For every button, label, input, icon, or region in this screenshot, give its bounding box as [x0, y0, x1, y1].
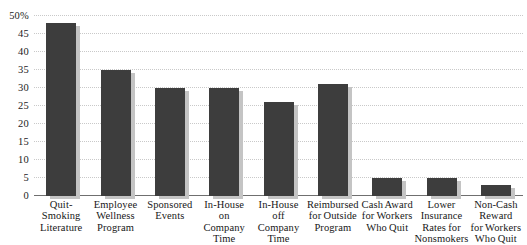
bar-fill [101, 70, 131, 196]
bar [101, 70, 131, 196]
bar-fill [427, 178, 457, 196]
y-tick-label: 45 [18, 29, 29, 39]
x-category-label: In-HouseoffCompanyTime [251, 199, 305, 245]
x-axis-category-labels: Quit-SmokingLiteratureEmployeeWellnessPr… [34, 199, 523, 245]
bar [318, 84, 348, 196]
x-category-label: Reimbursedfor OutsideProgram [306, 199, 360, 233]
bar-fill [372, 178, 402, 196]
x-category-label: LowerInsuranceRates forNonsmokers [414, 199, 468, 245]
y-tick-label: 50% [9, 11, 29, 21]
bar-fill [481, 185, 511, 196]
y-tick-label: 25 [18, 101, 29, 111]
y-tick-label: 30 [18, 83, 29, 93]
bar-fill [46, 23, 76, 196]
y-tick-label: 20 [18, 119, 29, 129]
x-category-label: EmployeeWellnessProgram [88, 199, 142, 233]
bar [372, 178, 402, 196]
x-category-label: SponsoredEvents [143, 199, 197, 222]
y-tick-label: 0 [24, 191, 29, 201]
bar [209, 88, 239, 196]
y-tick-label: 35 [18, 65, 29, 75]
bar [481, 185, 511, 196]
bars [34, 16, 523, 196]
x-category-label: Quit-SmokingLiterature [34, 199, 88, 233]
plot-area [34, 16, 523, 196]
y-tick-label: 15 [18, 137, 29, 147]
x-category-label: In-HouseonCompanyTime [197, 199, 251, 245]
bar-fill [318, 84, 348, 196]
y-tick-label: 40 [18, 47, 29, 57]
y-tick-label: 10 [18, 155, 29, 165]
bar-chart: 50%454035302520151050 Quit-SmokingLitera… [0, 0, 527, 245]
bar [155, 88, 185, 196]
y-tick-label: 5 [24, 173, 29, 183]
bar [264, 102, 294, 196]
bar-fill [264, 102, 294, 196]
bar-fill [155, 88, 185, 196]
bar [427, 178, 457, 196]
bar-fill [209, 88, 239, 196]
bar [46, 23, 76, 196]
y-axis: 50%454035302520151050 [0, 0, 32, 196]
x-category-label: Cash Awardfor WorkersWho Quit [360, 199, 414, 233]
x-category-label: Non-CashRewardfor WorkersWho Quit [469, 199, 523, 245]
